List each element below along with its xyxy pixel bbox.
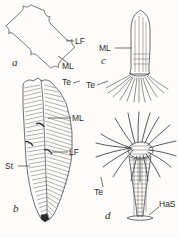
panel-a-label-LF: LF [75, 36, 85, 46]
panel-d: Te HaS d [94, 112, 176, 221]
panel-b: Te ML LF St b [5, 77, 84, 222]
panel-d-tentacle-crown [96, 112, 176, 182]
panel-d-letter: d [105, 209, 111, 221]
panel-c-label-ML: ML [99, 43, 111, 53]
panel-c-body-outline [130, 11, 150, 75]
panel-c-tentacle-fringe [106, 75, 168, 102]
scientific-figure-plate: LF ML a [0, 0, 179, 238]
panel-d-Te-leader [101, 177, 103, 187]
panel-b-label-ML: ML [72, 113, 84, 123]
panel-b-label-LF: LF [69, 147, 79, 157]
panel-a-label-ML: ML [62, 61, 74, 71]
panel-b-apex-tip [41, 214, 49, 222]
panel-c-label-Te: Te [86, 80, 95, 90]
panel-c-internal-cross [133, 54, 149, 64]
panel-a-letter: a [12, 56, 18, 68]
panel-c-internal-lines [135, 16, 146, 72]
panel-d-HaS-leader [149, 207, 159, 215]
panel-d-label-Te: Te [94, 187, 103, 197]
panel-c: ML Te c [86, 11, 168, 103]
panel-d-holdfast-plate [127, 216, 153, 221]
panel-c-Te-leader [97, 81, 108, 85]
panel-b-letter: b [13, 202, 19, 214]
panel-b-label-Te: Te [62, 77, 71, 87]
panel-c-letter: c [101, 54, 106, 66]
panel-b-accent-marks [36, 123, 44, 127]
panel-c-basal-collar [129, 73, 150, 76]
panel-d-label-HaS: HaS [159, 199, 176, 209]
panel-b-hatching-left [24, 85, 47, 216]
panel-b-label-St: St [5, 161, 14, 171]
panel-a: LF ML a [6, 5, 85, 71]
panel-b-hatching-right [44, 85, 72, 218]
panel-b-Te-leader [73, 81, 80, 83]
